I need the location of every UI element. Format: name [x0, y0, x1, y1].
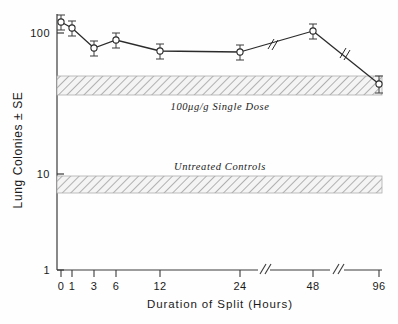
x-tick-label-1: 1	[69, 280, 76, 292]
figure-panel: 100 10 1 0 1 3 6 12 24 48 96 Duration of…	[0, 0, 398, 324]
x-tick-label-48: 48	[306, 280, 319, 292]
untreated-controls-band	[57, 176, 382, 193]
y-axis-title: Lung Colonies ± SE	[11, 92, 25, 209]
x-tick-label-0: 0	[58, 280, 65, 292]
series-line-break-1	[268, 39, 278, 50]
data-point	[237, 49, 243, 55]
x-tick-label-24: 24	[233, 280, 246, 292]
data-point	[157, 48, 163, 54]
x-axis	[57, 264, 382, 277]
y-tick-label-1: 1	[43, 264, 50, 276]
x-tick-label-6: 6	[113, 280, 120, 292]
data-point	[113, 37, 119, 43]
data-point	[58, 19, 64, 25]
x-tick-label-3: 3	[91, 280, 98, 292]
y-tick-label-10: 10	[37, 168, 50, 180]
data-point	[310, 28, 316, 34]
single-dose-band-label: 100μg/g Single Dose	[171, 101, 270, 112]
x-tick-label-96: 96	[372, 280, 385, 292]
data-point	[376, 81, 382, 87]
log-line-chart: 100 10 1 0 1 3 6 12 24 48 96 Duration of…	[0, 0, 398, 324]
data-point	[91, 45, 97, 51]
data-point	[69, 25, 75, 31]
x-axis-title: Duration of Split (Hours)	[147, 298, 293, 310]
y-axis	[57, 14, 64, 270]
x-axis-break-1	[260, 264, 271, 274]
x-axis-break-2	[333, 264, 344, 274]
single-dose-band	[57, 76, 382, 95]
y-tick-label-100: 100	[30, 27, 50, 39]
x-tick-label-12: 12	[153, 280, 166, 292]
untreated-controls-band-label: Untreated Controls	[174, 161, 266, 172]
series-line	[61, 22, 379, 84]
